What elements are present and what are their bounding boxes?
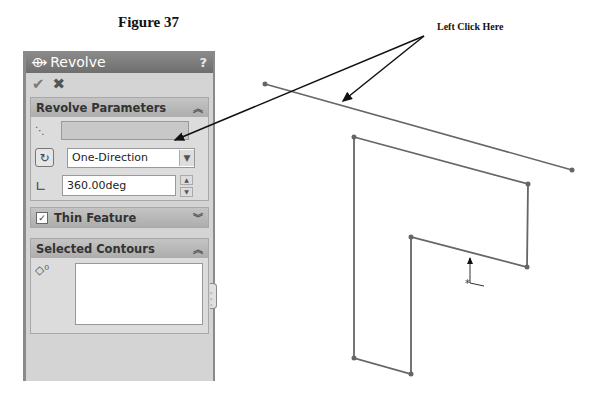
axis-centerline[interactable] xyxy=(263,82,575,173)
svg-text:*: * xyxy=(465,278,470,289)
origin-icon: * xyxy=(465,258,484,289)
sketch-profile[interactable] xyxy=(352,135,531,377)
callout-arrows xyxy=(175,36,424,140)
sketch-canvas[interactable]: * xyxy=(0,0,598,400)
